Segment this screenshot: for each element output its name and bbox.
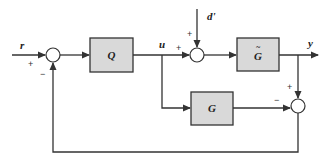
d-prime-label: d' (207, 10, 216, 22)
summing-junction-2 (190, 48, 204, 62)
g-tilde-accent: ~ (256, 43, 261, 52)
q-label: Q (108, 49, 116, 61)
u-to-g-arrow (162, 55, 190, 108)
sum2-plus-top-sign: + (187, 29, 192, 39)
sum1-minus-sign: − (40, 69, 45, 79)
sum2-plus-left-sign: + (176, 43, 181, 53)
y-label: y (306, 37, 313, 49)
sum3-minus-sign: − (274, 95, 279, 105)
block-diagram: r + − Q u + d' + G ~ y + G − (0, 0, 330, 162)
g-label: G (208, 102, 216, 114)
sum3-plus-sign: + (287, 82, 292, 92)
summing-junction-1 (46, 48, 60, 62)
summing-junction-3 (291, 99, 305, 113)
sum1-plus-sign: + (28, 59, 33, 69)
r-label: r (20, 39, 25, 51)
u-label: u (159, 38, 165, 50)
